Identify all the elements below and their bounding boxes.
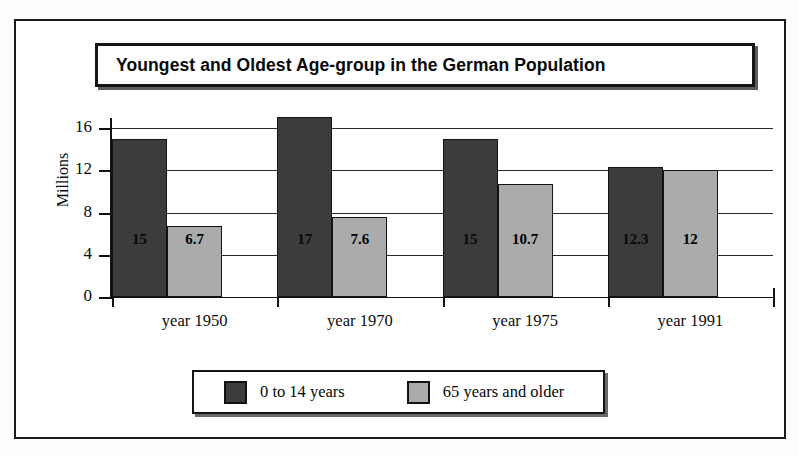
chart-legend: 0 to 14 years65 years and older <box>192 370 605 414</box>
page-title: Youngest and Oldest Age-group in the Ger… <box>98 55 606 76</box>
bar-young: 17 <box>277 117 332 297</box>
y-axis-tick-label: 16 <box>52 117 92 137</box>
bar-value-label: 7.6 <box>350 231 369 248</box>
y-axis-tick <box>99 128 111 130</box>
legend-label: 65 years and older <box>443 382 564 402</box>
bar-value-label: 15 <box>463 231 478 248</box>
y-axis-tick-label: 0 <box>52 286 92 306</box>
x-axis-tick <box>112 296 114 307</box>
x-axis-tick <box>608 296 610 307</box>
bar-value-label: 12.3 <box>622 231 648 248</box>
bar-value-label: 15 <box>132 231 147 248</box>
x-axis-category-label: year 1975 <box>445 311 605 331</box>
bar-old: 12 <box>663 170 718 297</box>
y-axis-tick <box>99 170 111 172</box>
x-axis-category-label: year 1970 <box>280 311 440 331</box>
y-axis-tick <box>99 213 111 215</box>
chart-title-box: Youngest and Oldest Age-group in the Ger… <box>95 43 755 87</box>
legend-label: 0 to 14 years <box>260 382 345 402</box>
x-axis-category-label: year 1991 <box>610 311 770 331</box>
y-axis-title: Millions <box>54 120 72 240</box>
y-axis-tick-label: 8 <box>52 202 92 222</box>
bar-old: 7.6 <box>332 217 387 297</box>
bar-young: 12.3 <box>608 167 663 297</box>
bar-value-label: 10.7 <box>512 231 538 248</box>
bar-value-label: 12 <box>683 231 698 248</box>
bar-value-label: 17 <box>297 231 312 248</box>
y-axis-tick-label: 12 <box>52 159 92 179</box>
x-axis-tick <box>277 296 279 307</box>
y-axis-top-cap <box>110 118 112 128</box>
bar-value-label: 6.7 <box>185 231 204 248</box>
legend-item: 0 to 14 years <box>224 372 345 412</box>
bar-old: 6.7 <box>167 226 222 297</box>
x-axis-tick <box>773 296 775 307</box>
y-axis-tick <box>99 297 111 299</box>
legend-swatch-icon <box>407 381 430 404</box>
legend-swatch-icon <box>224 381 247 404</box>
bar-young: 15 <box>443 139 498 297</box>
y-axis-tick-label: 4 <box>52 244 92 264</box>
plot-area: 156.7177.61510.712.312 <box>112 128 773 297</box>
x-axis-category-label: year 1950 <box>115 311 275 331</box>
bar-young: 15 <box>112 139 167 297</box>
legend-item: 65 years and older <box>407 372 564 412</box>
gridline <box>112 128 773 129</box>
y-axis-tick <box>99 255 111 257</box>
x-axis-tick <box>443 296 445 307</box>
bar-old: 10.7 <box>498 184 553 297</box>
chart-canvas: Youngest and Oldest Age-group in the Ger… <box>0 0 799 456</box>
